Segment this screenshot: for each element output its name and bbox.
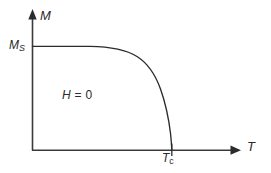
ms-subscript: S xyxy=(19,43,25,53)
magnetization-curve xyxy=(33,46,172,150)
y-tick-label-saturation-magnetization: MS xyxy=(9,39,25,53)
x-axis-label: T xyxy=(247,140,255,153)
equals-operator: = xyxy=(75,88,82,102)
y-axis-label: M xyxy=(40,9,51,22)
field-value: 0 xyxy=(85,88,92,102)
h-symbol: H xyxy=(62,88,71,102)
y-axis-arrow-icon xyxy=(28,9,36,20)
figure-container: M T MS Tc H = 0 xyxy=(0,0,271,173)
plot-canvas xyxy=(0,0,271,173)
x-tick-label-curie-temperature: Tc xyxy=(162,152,174,166)
tc-subscript: c xyxy=(169,156,173,166)
ms-symbol: M xyxy=(9,38,19,52)
x-axis-arrow-icon xyxy=(231,146,242,155)
applied-field-annotation: H = 0 xyxy=(62,89,92,101)
